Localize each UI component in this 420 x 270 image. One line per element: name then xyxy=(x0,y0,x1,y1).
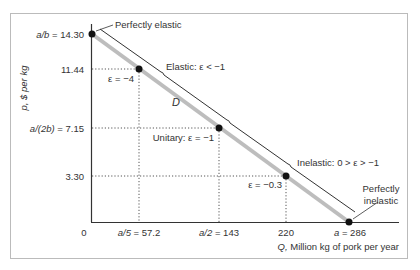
annotation-inelastic: Inelastic: 0 > ε > −1 xyxy=(297,157,379,168)
demand-elasticity-chart: p, $ per kg a/b = 14.30 11.44 a/(2b) = 7… xyxy=(0,0,420,270)
annotation-demand-D: D xyxy=(172,96,180,108)
point-eps-4 xyxy=(136,66,143,73)
annotation-perfectly-inelastic-2: inelastic xyxy=(364,195,399,206)
annotation-perfectly-elastic: Perfectly elastic xyxy=(115,19,182,30)
annotation-eps-03: ε = −0.3 xyxy=(248,179,282,190)
y-tick-3-30: 3.30 xyxy=(66,171,85,182)
annotation-unitary: Unitary: ε = −1 xyxy=(153,132,214,143)
x-axis-label: Q, Million kg of pork per year xyxy=(278,241,399,252)
x-tick-286: a = 286 xyxy=(334,227,366,238)
y-tick-7-15: a/(2b) = 7.15 xyxy=(30,123,84,134)
annotation-elastic: Elastic: ε < −1 xyxy=(166,61,225,72)
y-tick-11-44: 11.44 xyxy=(61,64,84,75)
annotation-perfectly-inelastic-1: Perfectly xyxy=(363,183,400,194)
point-perfectly-elastic xyxy=(89,31,96,38)
y-axis-label: p, $ per kg xyxy=(18,65,29,112)
x-tick-origin: 0 xyxy=(81,227,86,238)
x-tick-57-2: a/5 = 57.2 xyxy=(118,227,161,238)
annotation-eps-4: ε = −4 xyxy=(108,73,134,84)
x-tick-220: 220 xyxy=(278,227,294,238)
point-eps-03 xyxy=(283,173,290,180)
point-perfectly-inelastic xyxy=(346,219,353,226)
y-tick-14-30: a/b = 14.30 xyxy=(36,29,84,40)
x-tick-143: a/2 = 143 xyxy=(199,227,239,238)
point-unitary xyxy=(216,125,223,132)
